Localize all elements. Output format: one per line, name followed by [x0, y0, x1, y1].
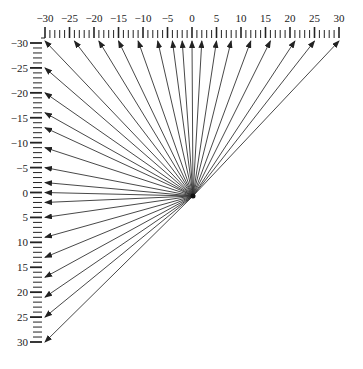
top-ruler-label: 20 [285, 12, 297, 24]
left-ruler-label: −25 [11, 62, 29, 74]
left-ruler-label: −15 [11, 112, 29, 124]
arrow [45, 113, 193, 196]
top-ruler-label: −25 [61, 12, 79, 24]
top-ruler-label: −20 [85, 12, 103, 24]
left-ruler-label: 10 [17, 236, 29, 248]
arrow [193, 41, 339, 196]
arrow [45, 196, 193, 297]
left-ruler-label: −5 [16, 162, 28, 174]
top-ruler-label: 15 [260, 12, 272, 24]
arrow [193, 41, 231, 196]
arrow [119, 41, 194, 196]
left-ruler-label: 20 [17, 286, 29, 298]
arrow-fan [45, 41, 339, 342]
arrow [45, 93, 193, 196]
top-ruler-label: 5 [214, 12, 220, 24]
left-ruler-label: −10 [11, 137, 29, 149]
arrow [193, 41, 295, 196]
top-ruler-label: 10 [236, 12, 248, 24]
top-ruler-label: −15 [110, 12, 128, 24]
left-ruler-label: −20 [11, 87, 29, 99]
top-ruler-label: 25 [309, 12, 321, 24]
left-ruler-label: 30 [17, 336, 29, 348]
radial-arrow-diagram: −30−25−20−15−10−5051015202530 −30−25−20−… [0, 0, 363, 369]
left-ruler-label: 15 [17, 261, 29, 273]
top-ruler-label: −10 [134, 12, 152, 24]
top-ruler-label: 30 [334, 12, 346, 24]
left-ruler: −30−25−20−15−10−5051015202530 [11, 37, 42, 348]
left-ruler-label: 0 [23, 187, 29, 199]
arrow [192, 41, 193, 196]
top-ruler-label: 0 [189, 12, 195, 24]
arrow [193, 41, 315, 196]
top-ruler: −30−25−20−15−10−5051015202530 [36, 12, 345, 38]
arrow [193, 41, 251, 196]
arrow [45, 68, 193, 196]
arrow [45, 196, 193, 237]
top-ruler-label: −30 [36, 12, 54, 24]
top-ruler-label: −5 [162, 12, 174, 24]
arrow [45, 196, 193, 342]
arrow [45, 196, 193, 257]
arrow [45, 196, 193, 277]
left-ruler-label: −30 [11, 37, 29, 49]
origin-point [191, 194, 196, 199]
left-ruler-label: 5 [23, 211, 29, 223]
left-ruler-label: 25 [17, 311, 29, 323]
arrow [45, 128, 193, 196]
arrow [193, 41, 202, 196]
arrow [45, 41, 193, 196]
